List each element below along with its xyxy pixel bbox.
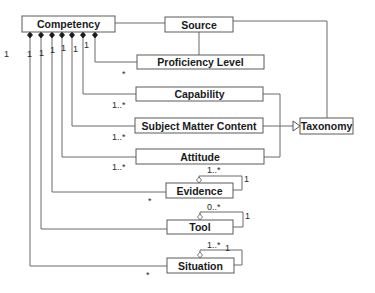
composition-diamond-icon bbox=[93, 32, 98, 38]
mult-attitude: 1..* bbox=[112, 162, 126, 172]
mult-evidence: * bbox=[148, 196, 152, 206]
class-label: Proficiency Level bbox=[157, 56, 243, 68]
composition-diamond-icon bbox=[50, 32, 55, 38]
class-label: Competency bbox=[37, 18, 100, 30]
gen-line-attitude bbox=[264, 126, 280, 157]
class-tool: Tool bbox=[167, 220, 233, 234]
class-label: Attitude bbox=[180, 151, 220, 163]
composition-diamond-icon bbox=[60, 32, 65, 38]
composition-diamond-icon bbox=[39, 32, 44, 38]
gen-line-capability bbox=[263, 94, 280, 126]
mult-subject: 1..* bbox=[112, 132, 126, 142]
class-source: Source bbox=[165, 17, 233, 32]
class-proficiency-level: Proficiency Level bbox=[137, 55, 264, 69]
class-taxonomy: Taxonomy bbox=[300, 118, 353, 134]
class-capability: Capability bbox=[136, 87, 263, 101]
mult-evidence-self-b: 1 bbox=[244, 174, 249, 184]
class-label: Taxonomy bbox=[301, 120, 353, 132]
class-competency: Competency bbox=[22, 16, 115, 32]
class-label: Tool bbox=[189, 221, 210, 233]
mult-competency-capability: 1 bbox=[73, 44, 78, 54]
mult-competency-subject: 1 bbox=[61, 43, 66, 53]
class-label: Situation bbox=[178, 260, 223, 272]
class-situation: Situation bbox=[167, 258, 234, 273]
composition-diamond-icon bbox=[28, 32, 33, 38]
class-subject-matter-content: Subject Matter Content bbox=[135, 118, 263, 133]
mult-tool-self-a: 0..* bbox=[207, 202, 221, 212]
composition-diamond-icon bbox=[70, 32, 75, 38]
class-label: Capability bbox=[174, 88, 224, 100]
mult-tool-self-b: 1 bbox=[245, 211, 250, 221]
comp-line-capability bbox=[83, 36, 136, 94]
composition-diamond-icon bbox=[81, 32, 86, 38]
mult-proficiency: * bbox=[122, 69, 126, 79]
generalization-arrow-icon bbox=[293, 121, 300, 131]
class-evidence: Evidence bbox=[166, 183, 233, 198]
mult-situation-self-a: 1..* bbox=[207, 240, 221, 250]
uml-class-diagram: Competency Source Proficiency Level Capa… bbox=[0, 0, 375, 293]
mult-evidence-self-a: 1..* bbox=[207, 165, 221, 175]
aggregation-diamond-icon bbox=[198, 252, 203, 258]
class-label: Evidence bbox=[176, 185, 222, 197]
class-label: Source bbox=[181, 19, 217, 31]
mult-competency-proficiency: 1 bbox=[84, 40, 89, 50]
aggregation-diamond-icon bbox=[198, 214, 203, 220]
mult-competency-tool: 1 bbox=[27, 49, 32, 59]
mult-competency-situation: 1 bbox=[4, 49, 9, 59]
mult-situation-self-b: 1 bbox=[225, 243, 230, 253]
mult-competency-evidence: 1 bbox=[39, 48, 44, 58]
comp-line-subject bbox=[72, 36, 135, 126]
class-attitude: Attitude bbox=[136, 149, 264, 164]
class-label: Subject Matter Content bbox=[142, 120, 257, 132]
mult-capability: 1..* bbox=[112, 100, 126, 110]
mult-situation: * bbox=[146, 270, 150, 280]
mult-competency-attitude: 1 bbox=[50, 45, 55, 55]
aggregation-diamond-icon bbox=[197, 177, 202, 183]
comp-line-proficiency bbox=[95, 36, 137, 62]
